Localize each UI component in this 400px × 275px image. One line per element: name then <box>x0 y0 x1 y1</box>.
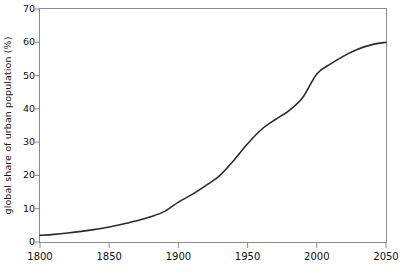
plot-area <box>0 0 400 275</box>
chart-figure: global share of urban population (%) 010… <box>0 0 400 275</box>
plot-frame <box>40 9 387 243</box>
